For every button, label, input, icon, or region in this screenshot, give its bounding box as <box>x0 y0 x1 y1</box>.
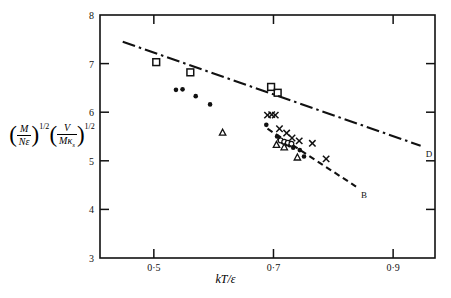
marker-filled-circle <box>298 148 303 153</box>
y-label-den2-main: Mκ <box>59 135 72 146</box>
y-label-exponent-2: 1/2 <box>85 123 95 131</box>
paren-close-2: ) <box>77 127 85 144</box>
marker-open-circle <box>289 141 294 146</box>
y-tick-label: 7 <box>89 59 94 70</box>
marker-open-square <box>274 89 281 96</box>
x-axis-label-text: kT/ε <box>215 272 235 286</box>
marker-open-square <box>187 69 194 76</box>
y-label-num2: V <box>57 122 77 135</box>
marker-open-square <box>153 59 160 66</box>
marker-filled-circle <box>174 88 179 93</box>
figure-panel: 3456780·50·70·9DB (MNε)1/2(VMκs)1/2 kT/ε <box>0 0 451 298</box>
marker-open-triangle <box>294 154 300 160</box>
y-axis-label: (MNε)1/2(VMκs)1/2 <box>4 122 100 149</box>
marker-filled-circle <box>302 154 307 159</box>
y-tick-label: 6 <box>89 107 94 118</box>
x-axis-label: kT/ε <box>0 272 451 287</box>
marker-filled-circle <box>264 123 269 128</box>
fraction-m-over-n-epsilon: MNε <box>17 123 32 147</box>
y-label-den2: Mκs <box>57 135 77 149</box>
y-label-den1: Nε <box>17 136 32 148</box>
scatter-plot: 3456780·50·70·9DB <box>0 0 451 298</box>
y-tick-label: 8 <box>89 10 94 21</box>
paren-open-1: ( <box>9 127 17 144</box>
marker-filled-circle <box>208 102 213 107</box>
marker-filled-circle <box>193 94 198 99</box>
fraction-v-over-m-kappa: VMκs <box>57 122 77 149</box>
y-label-exponent-1: 1/2 <box>39 123 49 131</box>
paren-close-1: ) <box>31 127 39 144</box>
paren-open-2: ( <box>49 127 57 144</box>
y-label-num1: M <box>17 123 32 136</box>
trend-line-D <box>123 42 421 146</box>
marker-open-triangle <box>219 129 225 135</box>
line-label-D: D <box>426 149 433 159</box>
y-tick-label: 4 <box>89 204 94 215</box>
marker-filled-circle <box>180 87 185 92</box>
y-tick-label: 3 <box>89 253 94 264</box>
y-tick-label: 5 <box>89 156 94 167</box>
line-label-B: B <box>361 190 367 200</box>
marker-open-square <box>268 84 275 91</box>
y-label-den2-subscript: s <box>72 141 75 149</box>
